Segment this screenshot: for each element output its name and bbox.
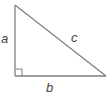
right-triangle-diagram: a b c	[0, 0, 110, 99]
label-a: a	[1, 31, 8, 46]
right-angle-marker	[15, 69, 22, 76]
label-b: b	[46, 80, 53, 95]
label-c: c	[71, 30, 78, 45]
side-c-hypotenuse	[15, 5, 106, 76]
